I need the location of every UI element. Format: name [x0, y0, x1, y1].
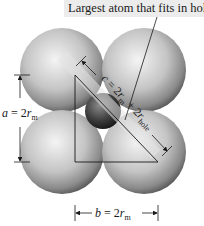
b-label: b = 2rm [95, 206, 131, 222]
packing-diagram: c = 2rm + 2rhole a = 2rm b = 2rm [0, 0, 204, 226]
a-label: a = 2rm [2, 106, 38, 122]
